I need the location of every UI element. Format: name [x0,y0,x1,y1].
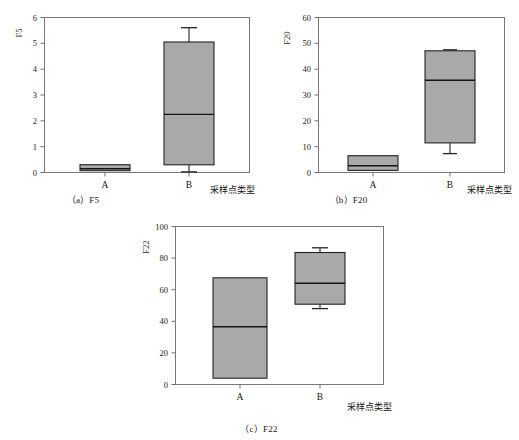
x-axis-f22: A B [237,385,324,403]
y-tick-label: 0 [33,168,37,178]
x-axis-f5: A B [102,173,193,191]
panel-caption-f22: （c）F22 [114,422,404,435]
y-axis-f22: 100 80 60 40 20 0 [155,222,175,390]
x-category-label: A [102,180,109,190]
y-axis-title: F20 [282,31,292,44]
y-tick-label: 5 [33,38,37,48]
plot-area-f5: 6 5 4 3 2 1 0 F5 A B [0,0,262,212]
plot-area-f20: 60 50 40 30 20 10 0 F20 A B [262,0,519,212]
x-category-label: A [370,180,377,190]
plot-frame [45,18,250,173]
x-axis-f20: A B [370,173,454,191]
x-category-label: B [317,392,323,402]
box-category-b [295,248,345,309]
y-tick-label: 30 [303,90,312,100]
y-tick-label: 6 [33,13,37,23]
y-tick-label: 3 [33,90,37,100]
panel-f5: 6 5 4 3 2 1 0 F5 A B [0,0,262,212]
y-tick-label: 40 [303,64,312,74]
y-tick-label: 10 [303,142,312,152]
panel-caption-f20: （b）F20 [220,193,477,206]
y-axis-title: F5 [14,29,24,38]
box-category-b [164,28,214,172]
y-tick-label: 80 [160,253,169,263]
x-category-label: B [186,180,192,190]
boxplot-svg-f5: 6 5 4 3 2 1 0 F5 A B [0,0,262,195]
plot-area-f22: 100 80 60 40 20 0 F22 A B [120,212,410,440]
box-category-a [348,156,398,171]
y-tick-label: 60 [160,285,169,295]
plot-frame [176,227,384,385]
y-axis-title: F22 [141,240,151,253]
y-tick-label: 2 [33,116,37,126]
y-axis-f20: 60 50 40 30 20 10 0 [303,13,319,178]
y-tick-label: 0 [164,380,168,390]
x-category-label: B [447,180,453,190]
x-category-label: A [237,392,244,402]
boxplot-svg-f22: 100 80 60 40 20 0 F22 A B [120,212,410,424]
y-tick-label: 20 [160,348,169,358]
panel-f20: 60 50 40 30 20 10 0 F20 A B [262,0,519,212]
y-tick-label: 60 [303,13,312,23]
panel-f22: 100 80 60 40 20 0 F22 A B [120,212,410,440]
y-tick-label: 100 [155,222,168,232]
box-category-a [80,165,130,171]
y-axis-f5: 6 5 4 3 2 1 0 [33,13,45,178]
y-tick-label: 20 [303,116,312,126]
x-axis-title: 采样点类型 [347,401,392,412]
y-tick-label: 40 [160,316,169,326]
y-tick-label: 0 [307,168,311,178]
y-tick-label: 50 [303,38,312,48]
y-tick-label: 1 [33,142,37,152]
y-tick-label: 4 [33,64,38,74]
box-category-a [213,278,267,378]
plot-frame [319,18,505,173]
panel-caption-f5: （a）F5 [0,193,214,206]
boxplot-svg-f20: 60 50 40 30 20 10 0 F20 A B [262,0,519,195]
box-category-b [425,50,475,154]
